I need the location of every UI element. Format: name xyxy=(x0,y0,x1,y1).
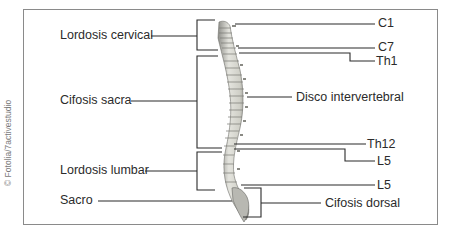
label-l5-lower: L5 xyxy=(377,179,391,192)
label-cifosis-sacra: Cifosis sacra xyxy=(60,94,132,107)
label-disco-intervertebral: Disco intervertebral xyxy=(296,91,404,104)
label-c1: C1 xyxy=(378,17,394,30)
spine-icon xyxy=(218,21,249,222)
label-c7: C7 xyxy=(378,41,394,54)
label-th1: Th1 xyxy=(376,55,398,68)
label-sacro: Sacro xyxy=(60,194,93,207)
label-cifosis-dorsal: Cifosis dorsal xyxy=(325,197,400,210)
label-lordosis-lumbar: Lordosis lumbar xyxy=(60,164,149,177)
label-l5-upper: L5 xyxy=(377,155,391,168)
label-th12: Th12 xyxy=(367,138,396,151)
label-lordosis-cervical: Lordosis cervical xyxy=(60,29,153,42)
